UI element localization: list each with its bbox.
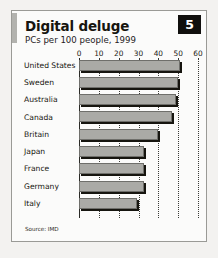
category-label: Japan — [24, 147, 45, 156]
x-tick-label: 60 — [193, 49, 202, 58]
bar — [79, 198, 137, 209]
bar — [79, 77, 178, 88]
category-label: Britain — [24, 130, 49, 139]
category-label: Italy — [24, 199, 40, 208]
gridline-50 — [178, 58, 179, 218]
scanned-page: Digital deluge PCs per 100 people, 1999 … — [0, 0, 218, 258]
x-tick-label: 20 — [114, 49, 123, 58]
x-tick-label: 0 — [77, 49, 82, 58]
bar — [79, 146, 144, 157]
bar — [79, 60, 180, 71]
bar — [79, 111, 172, 122]
category-label: United States — [24, 61, 75, 70]
bar — [79, 163, 144, 174]
category-label: France — [24, 164, 49, 173]
x-tick-label: 50 — [173, 49, 182, 58]
category-label: Australia — [24, 95, 58, 104]
category-label: Germany — [24, 182, 59, 191]
chart-card: Digital deluge PCs per 100 people, 1999 … — [11, 10, 207, 242]
bar — [79, 129, 158, 140]
bar — [79, 94, 176, 105]
x-tick-label: 10 — [94, 49, 103, 58]
bar-chart-plot: 0102030405060United StatesSwedenAustrali… — [12, 11, 208, 243]
category-label: Canada — [24, 113, 53, 122]
category-label: Sweden — [24, 78, 54, 87]
gridline-60 — [198, 58, 199, 218]
x-tick-label: 40 — [154, 49, 163, 58]
source-note: Source: IMD — [25, 226, 59, 232]
bar — [79, 181, 144, 192]
x-tick-label: 30 — [134, 49, 143, 58]
